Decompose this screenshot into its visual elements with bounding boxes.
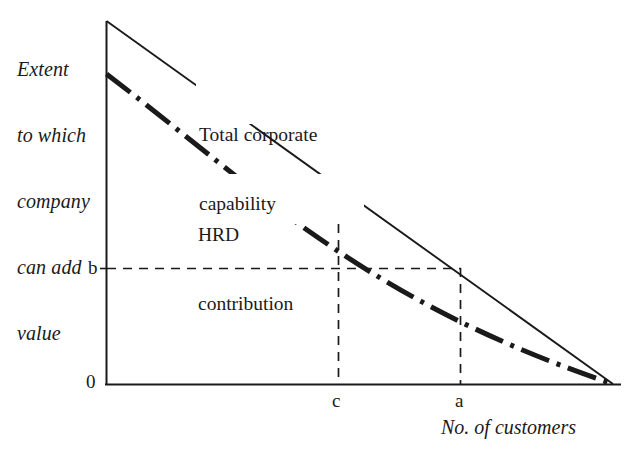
y-axis-title-line-5: value bbox=[17, 322, 109, 344]
x-tick-label-c: c bbox=[332, 391, 340, 410]
series-label-total-line-1: Total corporate bbox=[199, 123, 317, 146]
series-label-hrd-contribution: HRD contribution bbox=[198, 177, 293, 361]
chart-figure: Extent to which company can add value To… bbox=[0, 0, 635, 454]
series-label-hrd-line-1: HRD bbox=[198, 223, 293, 246]
y-axis-title-line-2: to which bbox=[17, 124, 109, 146]
x-tick-label-a: a bbox=[455, 391, 463, 410]
y-axis-title: Extent to which company can add value bbox=[17, 14, 109, 388]
y-tick-label-b: b bbox=[88, 258, 98, 277]
y-tick-label-zero: 0 bbox=[86, 372, 96, 391]
series-label-hrd-line-2: contribution bbox=[198, 292, 293, 315]
x-axis-title: No. of customers bbox=[441, 417, 576, 437]
y-axis-title-line-1: Extent bbox=[17, 58, 109, 80]
y-axis-title-line-3: company bbox=[17, 190, 109, 212]
